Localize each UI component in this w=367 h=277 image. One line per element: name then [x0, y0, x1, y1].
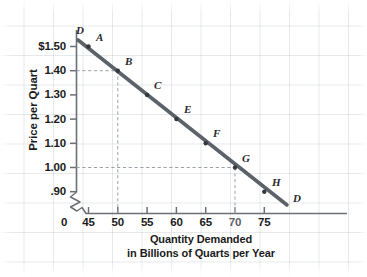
demand-curve-line	[78, 40, 287, 205]
x-tick-label-70: 70	[223, 216, 247, 228]
point-marker-g	[233, 165, 237, 169]
x-axis-title-line1: Quantity Demanded	[96, 233, 306, 247]
point-marker-b	[116, 69, 120, 73]
y-axis-title: Price per Quart	[27, 55, 39, 165]
point-marker-f	[204, 141, 208, 145]
point-label-b: B	[125, 55, 132, 67]
point-marker-c	[145, 93, 149, 97]
point-marker-h	[262, 190, 266, 194]
point-label-g: G	[242, 152, 250, 164]
point-marker-a	[86, 44, 90, 48]
point-label-a: A	[96, 31, 103, 43]
guide-lines	[77, 71, 236, 214]
x-axis-title-line2: in Billions of Quarts per Year	[96, 247, 306, 261]
axis-break-zigzag-icon	[71, 192, 87, 214]
y-tick-label-150: $1.50	[8, 40, 66, 52]
x-tick-label-65: 65	[194, 216, 218, 228]
x-tick-label-50: 50	[106, 216, 130, 228]
x-axis-ticks	[89, 207, 265, 214]
point-label-c: C	[154, 79, 161, 91]
y-tick-label-090: .90	[8, 185, 66, 197]
point-label-e: E	[184, 103, 191, 115]
point-label-f: F	[213, 127, 220, 139]
x-tick-label-45: 45	[77, 216, 101, 228]
x-tick-label-75: 75	[252, 216, 276, 228]
curve-label-start-d: D	[76, 24, 84, 36]
point-label-h: H	[272, 176, 281, 188]
x-tick-label-55: 55	[135, 216, 159, 228]
y-axis-ticks	[70, 47, 77, 192]
x-tick-label-0: 0	[52, 216, 76, 228]
curve-label-end-d: D	[293, 192, 301, 204]
x-tick-label-60: 60	[164, 216, 188, 228]
x-axis-title: Quantity Demanded in Billions of Quarts …	[96, 233, 306, 260]
point-marker-e	[174, 117, 178, 121]
demand-curve-chart: $1.50 1.40 1.30 1.20 1.10 1.00 .90 0 45 …	[0, 0, 367, 277]
